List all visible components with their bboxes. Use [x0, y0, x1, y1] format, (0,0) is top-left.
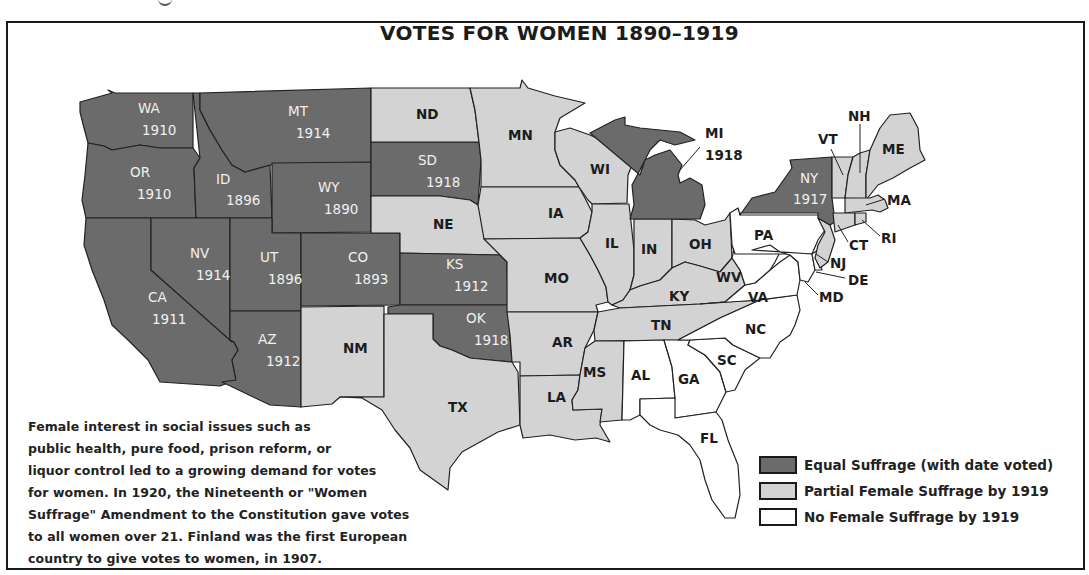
state-nm [301, 306, 384, 407]
note-line: to all women over 21. Finland was the fi… [28, 526, 468, 548]
state-label: MN [508, 127, 533, 143]
state-label: VT [818, 131, 838, 147]
note-line: Female interest in social issues such as [28, 416, 468, 438]
legend-item-partial: Partial Female Suffrage by 1919 [759, 478, 1053, 504]
state-fl [640, 398, 740, 518]
state-label: 1914 [296, 125, 330, 141]
leader-line [816, 272, 845, 278]
state-label: AR [552, 334, 573, 350]
state-label: NY [800, 170, 819, 186]
state-label: IN [641, 241, 657, 257]
state-ri [855, 213, 866, 225]
state-label: MT [288, 103, 309, 119]
state-label: WI [590, 161, 610, 177]
state-ma [845, 195, 888, 213]
state-label: FL [700, 430, 718, 446]
state-pa [730, 208, 825, 254]
state-label: 1912 [454, 278, 488, 294]
note-line: liquor control led to a growing demand f… [28, 460, 468, 482]
state-wy [272, 162, 371, 233]
state-label: CA [148, 289, 167, 305]
state-label: DE [848, 272, 868, 288]
state-label: KS [446, 256, 463, 272]
state-label: 1896 [226, 192, 260, 208]
state-label: TN [651, 317, 672, 333]
map-legend: Equal Suffrage (with date voted) Partial… [759, 452, 1053, 530]
state-label: 1910 [137, 186, 171, 202]
state-label: OH [689, 236, 712, 252]
state-label: 1918 [474, 332, 508, 348]
state-label: NV [190, 245, 210, 261]
state-label: KY [669, 288, 689, 304]
state-label: 1910 [142, 122, 176, 138]
state-label: IA [548, 205, 564, 221]
state-ia [478, 187, 592, 239]
legend-item-equal: Equal Suffrage (with date voted) [759, 452, 1053, 478]
legend-swatch-partial [759, 482, 797, 500]
state-label: NH [848, 108, 871, 124]
state-label: 1917 [793, 191, 827, 207]
leader-line [680, 147, 700, 170]
state-label: ID [216, 171, 230, 187]
state-label: 1914 [196, 267, 230, 283]
state-label: WA [138, 100, 161, 116]
state-label: 1893 [354, 271, 388, 287]
note-line: for women. In 1920, the Nineteenth or "W… [28, 482, 468, 504]
state-label: CT [849, 237, 869, 253]
legend-item-none: No Female Suffrage by 1919 [759, 504, 1053, 530]
state-label: AL [631, 367, 650, 383]
note-line: Suffrage" Amendment to the Constitution … [28, 504, 468, 526]
legend-swatch-none [759, 508, 797, 526]
state-wa [80, 90, 193, 150]
state-label: 1912 [266, 353, 300, 369]
state-label: MA [887, 192, 911, 208]
state-label: 1896 [268, 271, 302, 287]
state-co [301, 233, 400, 306]
state-label: UT [260, 249, 279, 265]
legend-label: Equal Suffrage (with date voted) [804, 457, 1053, 473]
state-label: VA [748, 289, 769, 305]
historical-note: Female interest in social issues such as… [28, 416, 468, 570]
state-label: NM [343, 340, 368, 356]
state-or [82, 143, 200, 218]
state-label: LA [547, 389, 567, 405]
state-ct [833, 213, 855, 232]
state-label: GA [678, 371, 700, 387]
leader-line [862, 220, 880, 236]
state-label: SC [717, 352, 737, 368]
state-label: SD [418, 152, 437, 168]
state-label: MI [705, 125, 723, 141]
state-label: MS [583, 364, 606, 380]
state-label: NC [745, 321, 766, 337]
legend-swatch-equal [759, 456, 797, 474]
state-label: OR [130, 164, 150, 180]
state-label: NE [433, 216, 454, 232]
state-label: OK [466, 310, 487, 326]
state-label: IL [605, 235, 619, 251]
note-line: country to give votes to women, in 1907. [28, 548, 468, 570]
state-label: RI [881, 230, 896, 246]
leader-line [805, 282, 818, 295]
state-label: ME [882, 141, 905, 157]
note-line: public health, pure food, prison reform,… [28, 438, 468, 460]
state-label: 1911 [152, 311, 186, 327]
state-label: PA [754, 227, 774, 243]
state-label: MD [819, 289, 844, 305]
state-label: 1918 [426, 174, 460, 190]
state-label: 1890 [324, 201, 358, 217]
legend-label: No Female Suffrage by 1919 [804, 509, 1019, 525]
state-label: AZ [258, 331, 276, 347]
state-label: WY [318, 179, 340, 195]
legend-label: Partial Female Suffrage by 1919 [804, 483, 1049, 499]
state-label: CO [348, 249, 368, 265]
state-label: MO [544, 270, 569, 286]
state-label: WV [716, 269, 742, 285]
state-label: 1918 [705, 147, 743, 163]
state-label: TX [448, 399, 468, 415]
state-label: ND [416, 106, 439, 122]
state-label: NJ [830, 255, 846, 271]
